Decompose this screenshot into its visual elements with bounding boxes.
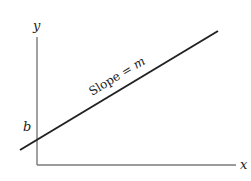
y-axis-label: y <box>32 18 41 33</box>
intercept-label: b <box>23 119 31 134</box>
linear-function-line <box>20 31 218 150</box>
x-axis-label: x <box>240 157 248 172</box>
diagram-canvas: y x b Slope = m <box>0 0 251 181</box>
slope-label-text: Slope = <box>86 60 138 99</box>
